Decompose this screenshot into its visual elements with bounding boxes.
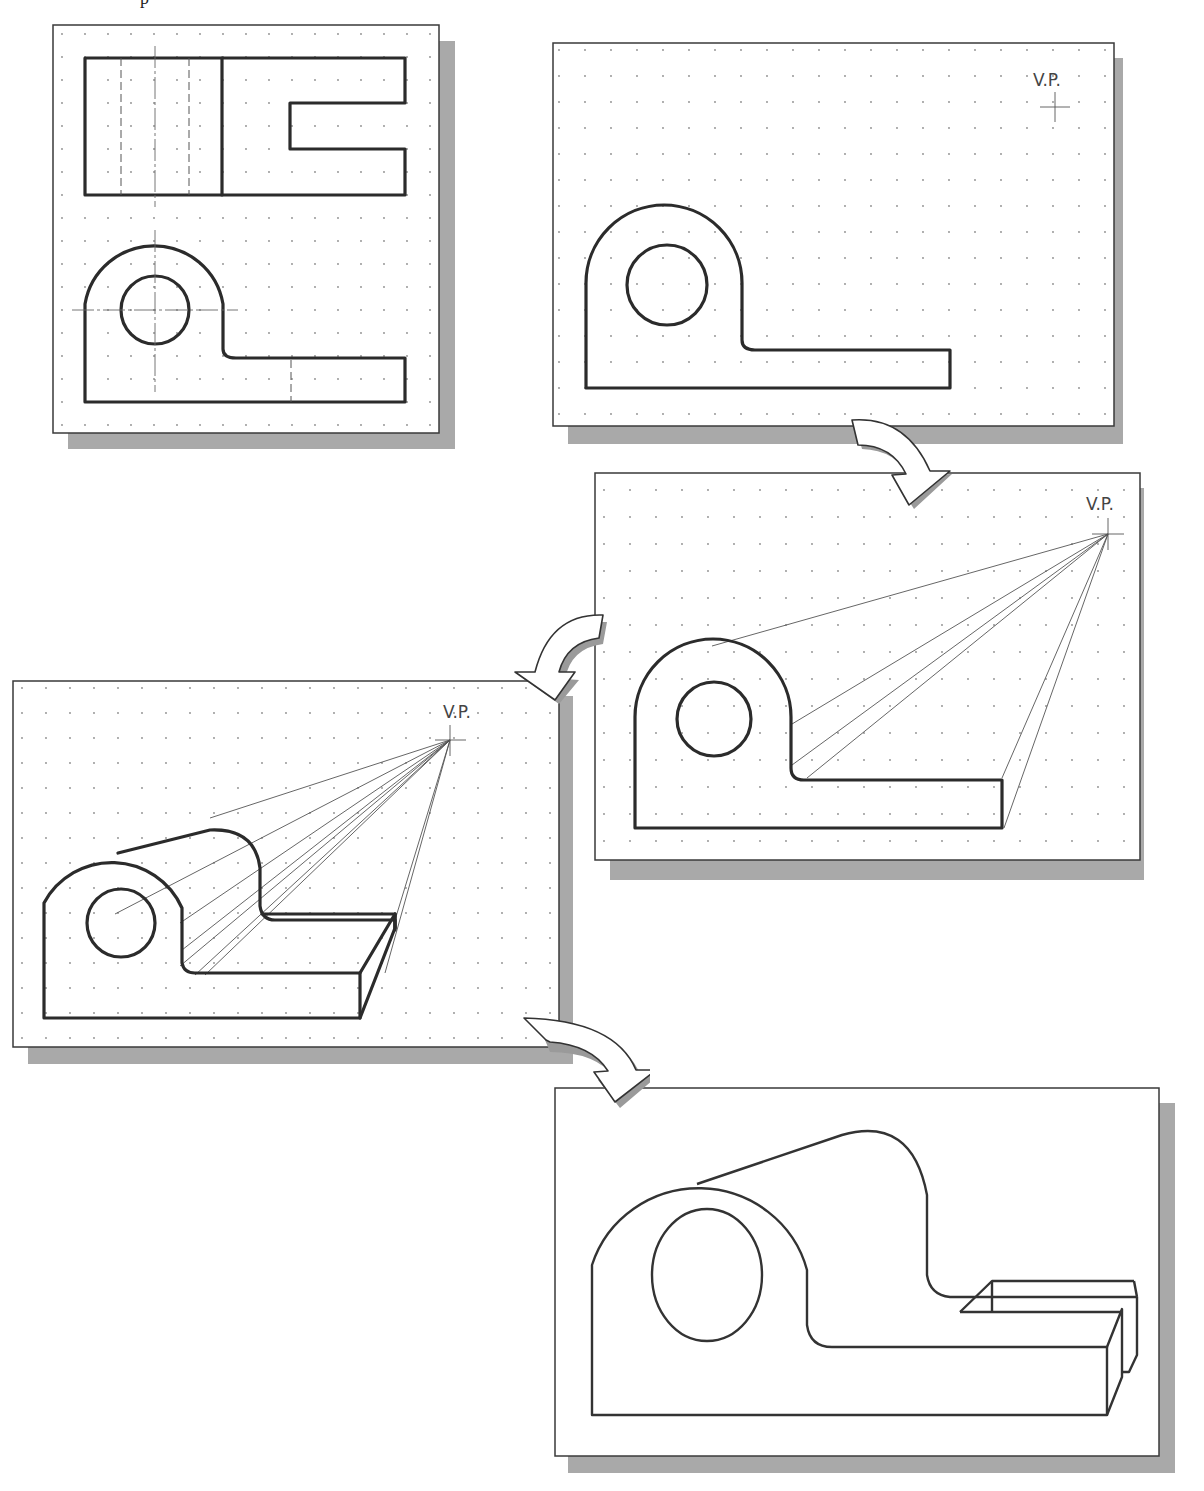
arrow-step2-to-step3 [840,405,960,515]
panel-depth-established: V.P. [10,678,580,1070]
panel-final-perspective [552,1085,1182,1485]
panel-orthographic-views [50,22,470,462]
vp-label: V.P. [1086,494,1114,514]
panel-frame [555,1088,1159,1456]
arrow-step4-to-step5 [520,1010,650,1110]
clipped-caption-fragment: p [140,0,149,9]
panel-projection-lines: V.P. [592,470,1152,890]
arrow-step3-to-step4 [495,600,615,710]
vp-label: V.P. [443,702,471,722]
panel-front-with-vp: V.P. [550,40,1130,450]
vp-label: V.P. [1033,70,1061,90]
